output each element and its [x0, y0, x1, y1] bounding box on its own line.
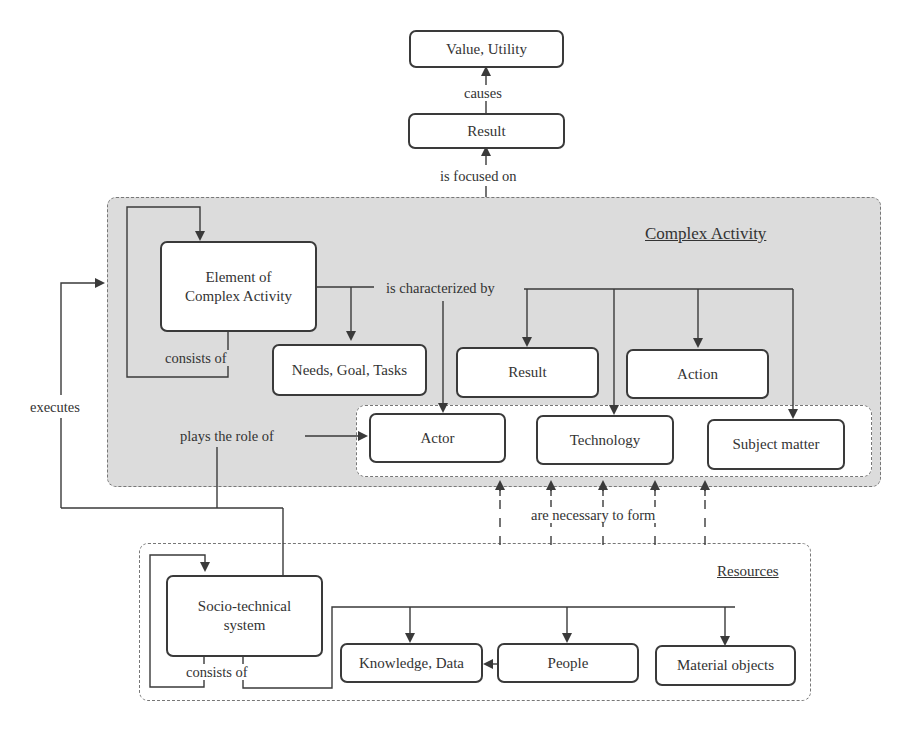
needs-goal-tasks-node: Needs, Goal, Tasks	[272, 344, 427, 396]
node-label: People	[548, 654, 589, 673]
edge-label-executes: executes	[30, 399, 80, 415]
edge-label-is-focused-on: is focused on	[440, 168, 517, 184]
node-label: Value, Utility	[446, 40, 527, 59]
node-label: Subject matter	[732, 435, 819, 454]
edge-label-causes: causes	[464, 85, 502, 101]
result-node: Result	[456, 347, 599, 398]
socio-technical-system-node: Socio-technical system	[166, 575, 323, 657]
knowledge-data-node: Knowledge, Data	[340, 643, 483, 683]
node-label: Needs, Goal, Tasks	[292, 361, 407, 380]
actor-node: Actor	[369, 413, 506, 463]
edge-label-is-characterized-by: is characterized by	[386, 280, 495, 296]
value-utility-node: Value, Utility	[409, 30, 564, 68]
edge-label-consists-of-top: consists of	[163, 350, 229, 366]
edge-label-plays-the-role-of: plays the role of	[180, 428, 274, 444]
node-label-line1: Socio-technical	[198, 597, 291, 616]
node-label-line2: Complex Activity	[185, 287, 292, 306]
node-label: Actor	[420, 429, 454, 448]
node-label: Material objects	[677, 656, 774, 675]
node-label: Result	[508, 363, 546, 382]
node-label-line2: system	[224, 616, 266, 635]
edge-label-are-necessary-to-form: are necessary to form	[529, 507, 657, 523]
people-node: People	[497, 643, 639, 683]
element-of-complex-activity-node: Element of Complex Activity	[160, 241, 317, 332]
node-label: Technology	[570, 431, 641, 450]
technology-node: Technology	[536, 415, 674, 465]
result-top-node: Result	[408, 113, 565, 149]
node-label: Result	[467, 122, 505, 141]
complex-activity-title: Complex Activity	[645, 226, 766, 242]
subject-matter-node: Subject matter	[707, 419, 845, 470]
node-label: Action	[677, 365, 718, 384]
node-label: Knowledge, Data	[359, 654, 464, 673]
material-objects-node: Material objects	[655, 645, 796, 686]
node-label-line1: Element of	[205, 268, 271, 287]
resources-title: Resources	[717, 563, 779, 579]
action-node: Action	[626, 349, 769, 399]
edge-label-consists-of-bottom: consists of	[184, 664, 250, 680]
